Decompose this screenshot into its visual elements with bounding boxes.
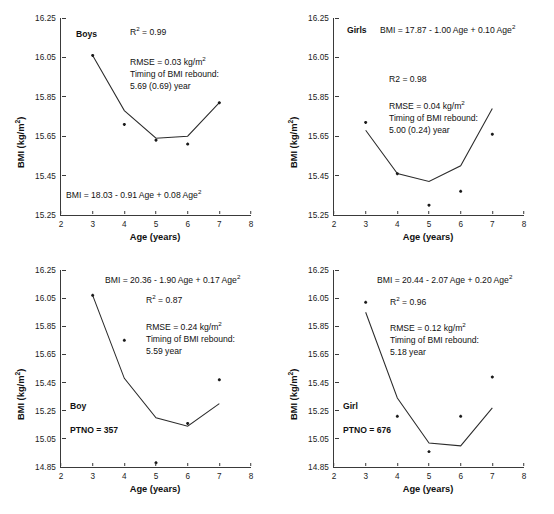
rebound-value: 5.69 (0.69) year bbox=[130, 80, 191, 92]
rebound-value: 5.00 (0.24) year bbox=[389, 124, 450, 136]
rebound-label: Timing of BMI rebound: bbox=[130, 68, 219, 80]
x-axis-tick: 5 bbox=[154, 215, 159, 229]
x-axis-tick: 7 bbox=[490, 467, 495, 481]
y-axis-tick: 16.05 bbox=[308, 53, 334, 62]
x-axis-label: Age (years) bbox=[60, 232, 250, 242]
chart-panel-boys-top: 16.2516.0515.8515.6515.4515.252345678 BM… bbox=[0, 0, 277, 252]
x-axis-tick: 8 bbox=[249, 215, 254, 229]
x-axis-tick: 5 bbox=[427, 467, 432, 481]
panel-group-label: Boy bbox=[70, 400, 86, 412]
plot-axes: 16.2516.0515.8515.6515.4515.2515.0514.85… bbox=[333, 270, 524, 468]
y-axis-tick: 15.25 bbox=[308, 406, 334, 415]
x-axis-tick: 7 bbox=[217, 467, 222, 481]
x-axis-tick: 6 bbox=[185, 215, 190, 229]
y-axis-tick: 15.25 bbox=[35, 211, 61, 220]
x-axis-label: Age (years) bbox=[333, 484, 523, 494]
x-axis-tick: 2 bbox=[59, 467, 64, 481]
chart-panel-girls-top: 16.2516.0515.8515.6515.4515.252345678 BM… bbox=[277, 0, 554, 252]
y-axis-tick: 15.85 bbox=[308, 322, 334, 331]
y-axis-label: BMI (kg/m2) bbox=[16, 369, 26, 420]
data-point-marker bbox=[123, 339, 126, 342]
equation-annotation: BMI = 18.03 - 0.91 Age + 0.08 Age2 bbox=[66, 189, 201, 201]
data-series-girl-bottom bbox=[334, 270, 524, 467]
data-point-marker bbox=[123, 123, 126, 126]
rmse-annotation: RMSE = 0.12 kg/m2 bbox=[390, 322, 466, 334]
data-point-marker bbox=[186, 143, 189, 146]
ptno-annotation: PTNO = 676 bbox=[343, 424, 391, 436]
y-axis-tick: 15.45 bbox=[35, 171, 61, 180]
y-axis-tick: 14.85 bbox=[35, 463, 61, 472]
x-axis-tick: 4 bbox=[122, 215, 127, 229]
rebound-label: Timing of BMI rebound: bbox=[146, 333, 235, 345]
data-point-marker bbox=[155, 139, 158, 142]
y-axis-tick: 16.05 bbox=[35, 53, 61, 62]
y-axis-tick: 16.25 bbox=[308, 14, 334, 23]
rmse-annotation: RMSE = 0.03 kg/m2 bbox=[130, 56, 206, 68]
y-axis-label: BMI (kg/m2) bbox=[16, 117, 26, 168]
panel-group-label: Boys bbox=[76, 28, 97, 40]
y-axis-tick: 16.05 bbox=[35, 294, 61, 303]
fitted-curve bbox=[93, 295, 220, 426]
equation-annotation: BMI = 20.36 - 1.90 Age + 0.17 Age2 bbox=[105, 274, 240, 286]
y-axis-tick: 16.25 bbox=[308, 266, 334, 275]
x-axis-label: Age (years) bbox=[333, 232, 523, 242]
x-axis-tick: 3 bbox=[363, 467, 368, 481]
y-axis-tick: 15.65 bbox=[35, 350, 61, 359]
rebound-value: 5.59 year bbox=[146, 345, 182, 357]
x-axis-tick: 3 bbox=[90, 215, 95, 229]
chart-panel-girl-bottom: 16.2516.0515.8515.6515.4515.2515.0514.85… bbox=[277, 252, 554, 514]
rebound-label: Timing of BMI rebound: bbox=[389, 112, 478, 124]
data-point-marker bbox=[364, 121, 367, 124]
r2-annotation: R2 = 0.99 bbox=[130, 26, 166, 38]
data-point-marker bbox=[428, 204, 431, 207]
rebound-label: Timing of BMI rebound: bbox=[390, 334, 479, 346]
y-axis-tick: 16.05 bbox=[308, 294, 334, 303]
data-point-marker bbox=[428, 450, 431, 453]
x-axis-tick: 3 bbox=[363, 215, 368, 229]
x-axis-tick: 8 bbox=[522, 467, 527, 481]
y-axis-tick: 16.25 bbox=[35, 266, 61, 275]
x-axis-tick: 2 bbox=[332, 467, 337, 481]
ptno-annotation: PTNO = 357 bbox=[70, 424, 118, 436]
plot-axes: 16.2516.0515.8515.6515.4515.252345678 bbox=[60, 18, 251, 216]
x-axis-tick: 6 bbox=[185, 467, 190, 481]
x-axis-tick: 4 bbox=[395, 467, 400, 481]
x-axis-tick: 4 bbox=[395, 215, 400, 229]
y-axis-tick: 14.85 bbox=[308, 463, 334, 472]
y-axis-tick: 15.65 bbox=[308, 132, 334, 141]
x-axis-label: Age (years) bbox=[60, 484, 250, 494]
x-axis-tick: 7 bbox=[217, 215, 222, 229]
data-point-marker bbox=[218, 378, 221, 381]
y-axis-tick: 15.85 bbox=[35, 322, 61, 331]
x-axis-tick: 5 bbox=[427, 215, 432, 229]
y-axis-tick: 15.05 bbox=[35, 434, 61, 443]
rmse-annotation: RMSE = 0.04 kg/m2 bbox=[389, 100, 465, 112]
r2-annotation: R2 = 0.98 bbox=[389, 73, 427, 85]
data-point-marker bbox=[491, 375, 494, 378]
x-axis-tick: 8 bbox=[522, 215, 527, 229]
y-axis-tick: 15.45 bbox=[308, 378, 334, 387]
y-axis-tick: 15.25 bbox=[308, 211, 334, 220]
x-axis-tick: 3 bbox=[90, 467, 95, 481]
data-point-marker bbox=[364, 301, 367, 304]
y-axis-label: BMI (kg/m2) bbox=[289, 369, 299, 420]
data-point-marker bbox=[396, 415, 399, 418]
y-axis-tick: 15.45 bbox=[35, 378, 61, 387]
panel-group-label: Girl bbox=[343, 400, 358, 412]
x-axis-tick: 4 bbox=[122, 467, 127, 481]
y-axis-tick: 16.25 bbox=[35, 14, 61, 23]
y-axis-tick: 15.05 bbox=[308, 434, 334, 443]
x-axis-tick: 6 bbox=[458, 467, 463, 481]
data-point-marker bbox=[459, 415, 462, 418]
data-point-marker bbox=[91, 294, 94, 297]
y-axis-tick: 15.65 bbox=[308, 350, 334, 359]
x-axis-tick: 6 bbox=[458, 215, 463, 229]
equation-annotation: BMI = 17.87 - 1.00 Age + 0.10 Age2 bbox=[380, 24, 515, 36]
x-axis-tick: 5 bbox=[154, 467, 159, 481]
y-axis-tick: 15.45 bbox=[308, 171, 334, 180]
rebound-value: 5.18 year bbox=[390, 346, 426, 358]
y-axis-tick: 15.85 bbox=[308, 92, 334, 101]
panel-group-label: Girls bbox=[347, 24, 367, 36]
data-point-marker bbox=[459, 190, 462, 193]
y-axis-tick: 15.25 bbox=[35, 406, 61, 415]
